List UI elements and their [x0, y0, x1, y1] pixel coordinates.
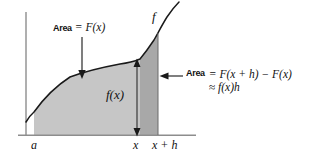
label-area-equals-F: Area = F(x): [53, 22, 105, 34]
axis-tick-a: a: [31, 139, 37, 151]
region-F-of-x: [34, 59, 140, 135]
label-curve-f: f: [152, 10, 156, 23]
label-area-word: Area: [53, 24, 72, 33]
label-area-word-2: Area: [186, 69, 205, 78]
label-area-difference-line1: = F(x + h) − F(x): [209, 69, 292, 81]
label-height-fx: f(x): [106, 88, 124, 101]
area-F-pointer-arrow: [78, 37, 85, 79]
label-area-difference-stack: = F(x + h) − F(x) ≈ f(x)h: [209, 69, 292, 93]
label-area-difference-line2: ≈ f(x)h: [209, 82, 292, 94]
label-area-value: = F(x): [75, 22, 105, 34]
axis-tick-x-plus-h: x + h: [152, 139, 177, 151]
area-delta-pointer-arrow: [160, 72, 184, 79]
label-area-difference: Area = F(x + h) − F(x) ≈ f(x)h: [186, 69, 292, 93]
axis-tick-x: x: [133, 139, 138, 151]
area-under-curve-figure: Area = F(x) f f(x) Area = F(x + h) − F(x…: [0, 0, 310, 162]
